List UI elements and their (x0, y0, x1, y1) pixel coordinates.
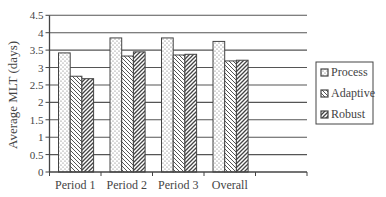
bar-process-period-1 (59, 53, 71, 172)
bar-process-overall (213, 41, 225, 172)
legend: ProcessAdaptiveRobust (316, 62, 375, 124)
legend-swatch-robust (321, 111, 328, 118)
bar-robust-period-3 (185, 54, 197, 172)
legend-swatch-process (321, 69, 328, 76)
legend-label-process: Process (331, 65, 368, 79)
x-category-label: Overall (212, 178, 249, 192)
bar-robust-period-2 (133, 52, 145, 172)
bar-robust-overall (236, 60, 248, 172)
x-category-label: Period 2 (107, 178, 147, 192)
legend-swatch-adaptive (321, 90, 328, 97)
x-category-label: Period 3 (158, 178, 198, 192)
y-tick-label: 3.5 (30, 44, 44, 56)
bar-adaptive-period-1 (70, 76, 82, 172)
legend-label-adaptive: Adaptive (331, 86, 375, 100)
legend-label-robust: Robust (331, 107, 366, 121)
bar-process-period-2 (110, 38, 122, 172)
y-tick-label: 2.5 (30, 79, 44, 91)
bar-robust-period-1 (82, 79, 94, 172)
bars (59, 38, 249, 172)
bar-process-period-3 (162, 38, 174, 172)
y-axis-tick-labels: 00.511.522.533.544.5 (30, 9, 44, 178)
y-tick-label: 4.5 (30, 9, 44, 21)
bar-adaptive-overall (225, 61, 237, 172)
y-tick-label: 0 (38, 166, 44, 178)
y-tick-label: 3 (38, 62, 44, 74)
y-tick-label: 1 (38, 131, 44, 143)
y-tick-label: 2 (38, 96, 44, 108)
y-tick-label: 0.5 (30, 149, 44, 161)
bar-adaptive-period-3 (173, 55, 185, 172)
x-axis-category-labels: Period 1Period 2Period 3Overall (55, 178, 248, 192)
bar-adaptive-period-2 (122, 56, 134, 172)
y-tick-label: 4 (38, 27, 44, 39)
bar-chart: 00.511.522.533.544.5 Period 1Period 2Per… (0, 0, 386, 197)
x-category-label: Period 1 (55, 178, 95, 192)
y-tick-label: 1.5 (30, 114, 44, 126)
y-axis-title: Average MLT (days) (5, 41, 20, 149)
